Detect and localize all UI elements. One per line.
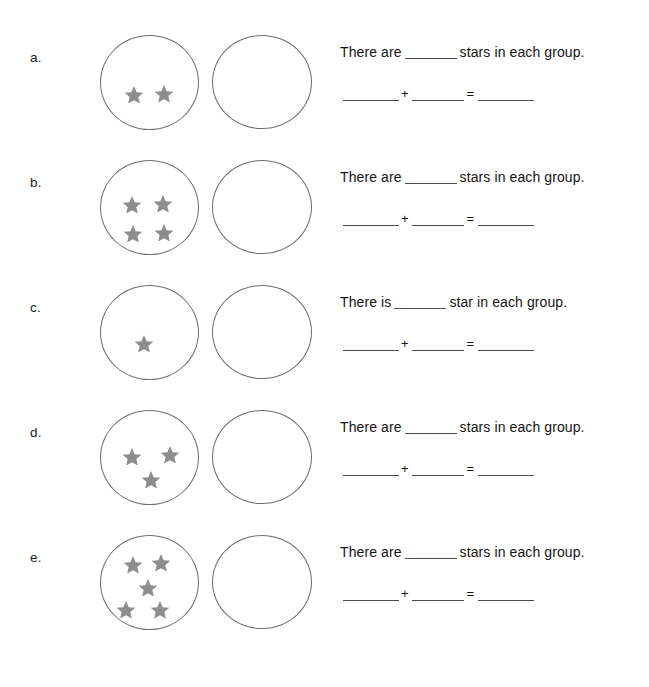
- addend2-blank[interactable]: [412, 336, 464, 351]
- star-icon: [121, 194, 143, 216]
- problem-row: c.There isstar in each group.+=: [0, 250, 649, 375]
- problem-row: e.There arestars in each group.+=: [0, 500, 649, 625]
- left-group-circle: [100, 535, 199, 630]
- plus-operator: +: [401, 336, 409, 351]
- star-icon: [133, 333, 155, 355]
- addend2-blank[interactable]: [412, 211, 464, 226]
- sentence-prefix: There is: [340, 294, 391, 310]
- addend2-blank[interactable]: [412, 461, 464, 476]
- star-icon: [140, 469, 162, 491]
- sentence-suffix: stars in each group.: [460, 544, 585, 560]
- problem-row: a.There arestars in each group.+=: [0, 0, 649, 125]
- sentence-block: There arestars in each group.+=: [340, 417, 640, 477]
- star-icon: [159, 444, 181, 466]
- problem-label: a.: [30, 50, 42, 65]
- sentence-block: There isstar in each group.+=: [340, 292, 640, 352]
- addend2-blank[interactable]: [412, 86, 464, 101]
- problem-row: b.There arestars in each group.+=: [0, 125, 649, 250]
- star-icon: [153, 83, 175, 105]
- left-group-star-field: [101, 536, 198, 629]
- count-sentence: There arestars in each group.: [340, 542, 640, 562]
- sentence-block: There arestars in each group.+=: [340, 167, 640, 227]
- plus-operator: +: [401, 211, 409, 226]
- sentence-prefix: There are: [340, 544, 402, 560]
- count-sentence: There arestars in each group.: [340, 417, 640, 437]
- problem-label: d.: [30, 425, 42, 440]
- equals-operator: =: [467, 211, 475, 226]
- sentence-suffix: stars in each group.: [460, 169, 585, 185]
- sentence-suffix: star in each group.: [449, 294, 567, 310]
- problem-label: e.: [30, 550, 42, 565]
- count-sentence: There isstar in each group.: [340, 292, 640, 312]
- equation-line: +=: [340, 336, 640, 352]
- equation-line: +=: [340, 586, 640, 602]
- addend1-blank[interactable]: [343, 336, 399, 351]
- sum-blank[interactable]: [478, 86, 534, 101]
- star-icon: [150, 552, 172, 574]
- left-group-star-field: [101, 36, 198, 129]
- count-answer-blank[interactable]: [405, 544, 457, 559]
- star-icon: [153, 222, 175, 244]
- plus-operator: +: [401, 586, 409, 601]
- right-group-circle[interactable]: [212, 35, 312, 129]
- sentence-suffix: stars in each group.: [460, 44, 585, 60]
- star-icon: [137, 577, 159, 599]
- left-group-circle: [100, 160, 199, 255]
- star-icon: [152, 193, 174, 215]
- count-answer-blank[interactable]: [405, 44, 457, 59]
- sum-blank[interactable]: [478, 461, 534, 476]
- right-group-circle[interactable]: [212, 410, 312, 504]
- equation-line: +=: [340, 461, 640, 477]
- sentence-suffix: stars in each group.: [460, 419, 585, 435]
- plus-operator: +: [401, 461, 409, 476]
- sum-blank[interactable]: [478, 586, 534, 601]
- addend1-blank[interactable]: [343, 86, 399, 101]
- sentence-block: There arestars in each group.+=: [340, 542, 640, 602]
- count-sentence: There arestars in each group.: [340, 167, 640, 187]
- right-group-circle[interactable]: [212, 535, 312, 629]
- sentence-block: There arestars in each group.+=: [340, 42, 640, 102]
- equals-operator: =: [467, 86, 475, 101]
- plus-operator: +: [401, 86, 409, 101]
- count-sentence: There arestars in each group.: [340, 42, 640, 62]
- problem-label: b.: [30, 175, 42, 190]
- count-answer-blank[interactable]: [405, 169, 457, 184]
- sentence-prefix: There are: [340, 419, 402, 435]
- problem-label: c.: [30, 300, 41, 315]
- star-icon: [122, 223, 144, 245]
- equals-operator: =: [467, 586, 475, 601]
- right-group-circle[interactable]: [212, 160, 312, 254]
- left-group-star-field: [101, 161, 198, 254]
- left-group-circle: [100, 35, 199, 130]
- count-answer-blank[interactable]: [405, 419, 457, 434]
- star-icon: [115, 599, 137, 621]
- star-icon: [123, 84, 145, 106]
- count-answer-blank[interactable]: [394, 294, 446, 309]
- left-group-circle: [100, 410, 199, 505]
- addend1-blank[interactable]: [343, 586, 399, 601]
- left-group-star-field: [101, 411, 198, 504]
- sum-blank[interactable]: [478, 336, 534, 351]
- sum-blank[interactable]: [478, 211, 534, 226]
- right-group-circle[interactable]: [212, 285, 312, 379]
- star-icon: [121, 446, 143, 468]
- left-group-star-field: [101, 286, 198, 379]
- addend2-blank[interactable]: [412, 586, 464, 601]
- addend1-blank[interactable]: [343, 461, 399, 476]
- star-icon: [122, 554, 144, 576]
- equals-operator: =: [467, 336, 475, 351]
- problem-row: d.There arestars in each group.+=: [0, 375, 649, 500]
- sentence-prefix: There are: [340, 44, 402, 60]
- worksheet-page: a.There arestars in each group.+=b.There…: [0, 0, 649, 687]
- equals-operator: =: [467, 461, 475, 476]
- left-group-circle: [100, 285, 199, 380]
- addend1-blank[interactable]: [343, 211, 399, 226]
- sentence-prefix: There are: [340, 169, 402, 185]
- star-icon: [149, 599, 171, 621]
- equation-line: +=: [340, 86, 640, 102]
- equation-line: +=: [340, 211, 640, 227]
